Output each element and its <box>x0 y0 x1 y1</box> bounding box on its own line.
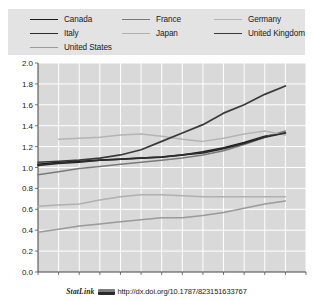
legend-row: CanadaFranceGermany <box>8 12 305 26</box>
legend-item-canada[interactable]: Canada <box>30 15 122 24</box>
y-tick-label: 1.2 <box>22 143 34 152</box>
legend-label: France <box>156 15 181 24</box>
legend-swatch-line-icon <box>30 19 58 20</box>
statlink-label: StatLink <box>66 287 94 296</box>
y-tick-label: 0.6 <box>22 205 34 214</box>
y-tick-label: 1.6 <box>22 101 34 110</box>
x-tick-label: 2007 <box>268 277 286 278</box>
legend-label: United Kingdom <box>248 29 305 38</box>
line-chart: 0.00.20.40.60.81.01.21.41.61.82.01995199… <box>0 58 313 278</box>
x-tick-label: 1998 <box>83 277 101 278</box>
legend-swatch-line-icon <box>214 33 242 34</box>
y-tick-label: 0.2 <box>22 247 34 256</box>
statlink-url[interactable]: http://dx.doi.org/10.1787/823151633767 <box>118 287 247 296</box>
legend-item-italy[interactable]: Italy <box>30 29 122 38</box>
y-tick-label: 2.0 <box>22 59 34 68</box>
legend-swatch-line-icon <box>30 33 58 34</box>
x-tick-label: 2004 <box>207 277 225 278</box>
legend-label: Italy <box>64 29 79 38</box>
plot-area-wrapper: 0.00.20.40.60.81.01.21.41.61.82.01995199… <box>0 58 313 278</box>
legend-item-france[interactable]: France <box>122 15 214 24</box>
legend-rows: CanadaFranceGermanyItalyJapanUnited King… <box>8 9 305 55</box>
y-tick-label: 0.0 <box>22 268 34 277</box>
legend-item-united-kingdom[interactable]: United Kingdom <box>214 29 305 38</box>
statlink-icon <box>98 289 115 295</box>
y-tick-label: 0.8 <box>22 184 34 193</box>
x-tick-label: 1995 <box>21 277 39 278</box>
x-tick-label: 2000 <box>124 277 142 278</box>
chart-legend: CanadaFranceGermanyItalyJapanUnited King… <box>8 9 305 55</box>
x-tick-label: 2006 <box>248 277 266 278</box>
legend-swatch-line-icon <box>214 19 242 20</box>
legend-row: ItalyJapanUnited Kingdom <box>8 26 305 40</box>
legend-label: Japan <box>156 29 178 38</box>
legend-swatch-line-icon <box>122 19 150 20</box>
legend-swatch-line-icon <box>30 47 58 48</box>
x-tick-label: 2003 <box>186 277 204 278</box>
x-tick-label: 1997 <box>62 277 80 278</box>
y-tick-label: 1.0 <box>22 164 34 173</box>
legend-label: Canada <box>64 15 92 24</box>
y-tick-label: 1.4 <box>22 122 34 131</box>
legend-row: United States <box>8 40 305 54</box>
x-tick-label: 2005 <box>227 277 245 278</box>
cropped-title-remnant <box>96 0 216 6</box>
legend-label: Germany <box>248 15 281 24</box>
y-tick-label: 0.4 <box>22 226 34 235</box>
legend-item-japan[interactable]: Japan <box>122 29 214 38</box>
legend-item-germany[interactable]: Germany <box>214 15 281 24</box>
x-tick-label: 2001 <box>145 277 163 278</box>
figure-root: CanadaFranceGermanyItalyJapanUnited King… <box>0 0 313 300</box>
legend-label: United States <box>64 43 112 52</box>
x-tick-label: 1999 <box>104 277 122 278</box>
x-tick-label: 1996 <box>42 277 60 278</box>
x-tick-label: 2002 <box>165 277 183 278</box>
legend-swatch-line-icon <box>122 33 150 34</box>
y-tick-label: 1.8 <box>22 80 34 89</box>
legend-item-united-states[interactable]: United States <box>30 43 122 52</box>
chart-footer: StatLink http://dx.doi.org/10.1787/82315… <box>0 287 313 296</box>
x-tick-label: 2008 <box>289 277 307 278</box>
